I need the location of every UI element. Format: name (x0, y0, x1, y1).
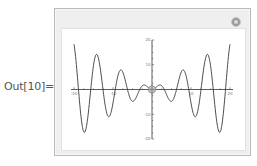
plus-circle-icon[interactable] (231, 17, 241, 27)
locator-crosshair-icon[interactable] (148, 85, 157, 94)
plot-panel: -20-1010202010-10-20 (61, 28, 246, 151)
svg-text:-20: -20 (144, 136, 151, 141)
svg-text:10: 10 (145, 62, 151, 67)
svg-text:-10: -10 (144, 112, 151, 117)
svg-text:20: 20 (145, 37, 151, 42)
manipulate-frame: -20-1010202010-10-20 (54, 8, 251, 156)
plot: -20-1010202010-10-20 (62, 29, 247, 152)
output-cell-label: Out[10]= (4, 80, 54, 93)
svg-text:-10: -10 (110, 91, 117, 96)
svg-text:-20: -20 (71, 91, 78, 96)
svg-text:20: 20 (227, 91, 233, 96)
manipulate-header (55, 9, 250, 27)
